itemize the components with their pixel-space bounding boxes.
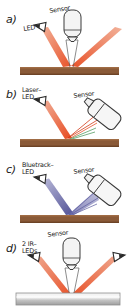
panel-a-source-label: LED <box>23 24 36 32</box>
led-wedge-icon <box>34 175 46 184</box>
incident-blue-beam <box>42 179 74 216</box>
panel-c-graphic <box>0 152 136 228</box>
panel-d-graphic <box>0 228 136 308</box>
panel-letter-a: a) <box>6 14 17 25</box>
panel-d-source-label: 2 IR– LEDs <box>22 241 37 254</box>
panel-b-graphic <box>0 78 136 152</box>
panel-letter-b: b) <box>6 89 17 100</box>
tilted-block-sensor-icon <box>80 93 123 132</box>
metal-surface <box>16 293 120 305</box>
panel-c: c) Bluetrack– LED Sensor <box>0 152 136 228</box>
vertical-cylinder-sensor-icon <box>63 238 80 270</box>
panel-a: a) LED Sensor <box>0 0 136 78</box>
optical-sensor-figure: a) LED Sensor <box>0 0 136 308</box>
panel-c-source-label: Bluetrack– LED <box>22 162 54 175</box>
panel-d: d) 2 IR– LEDs Sensor <box>0 228 136 308</box>
panel-b-source-label: Laser– LED <box>22 87 41 100</box>
panel-letter-c: c) <box>6 164 16 175</box>
led-wedge-icon-right <box>113 253 125 262</box>
wood-surface <box>20 67 119 75</box>
wood-surface <box>20 215 119 223</box>
wood-surface <box>20 139 119 147</box>
panel-letter-d: d) <box>6 243 17 254</box>
panel-b: b) Laser– LED Sensor <box>0 78 136 152</box>
vertical-cylinder-sensor-icon <box>64 10 81 42</box>
incident-laser-beam <box>42 101 72 140</box>
